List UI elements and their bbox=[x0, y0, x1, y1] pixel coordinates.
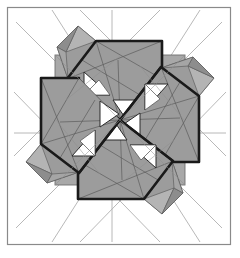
figure-root bbox=[0, 0, 240, 258]
geometric-construction-figure bbox=[0, 0, 240, 258]
